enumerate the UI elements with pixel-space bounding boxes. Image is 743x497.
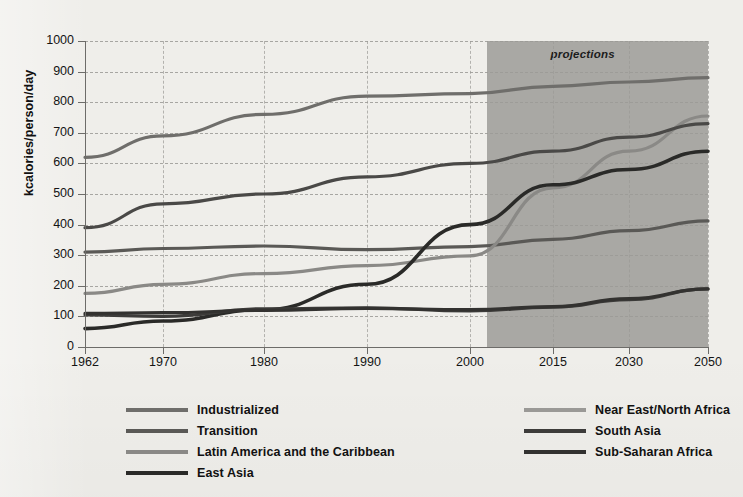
x-tick-label-2030: 2030: [615, 355, 643, 369]
x-tick-label-2050: 2050: [694, 355, 722, 369]
legend-item-industrialized[interactable]: Industrialized: [126, 403, 279, 417]
chart-legend: IndustrializedTransitionLatin America an…: [126, 403, 726, 485]
legend-item-latin-america-and-the-caribbean[interactable]: Latin America and the Caribbean: [126, 445, 395, 459]
legend-label-latin-america-and-the-caribbean: Latin America and the Caribbean: [197, 445, 395, 459]
legend-label-near-east-north-africa: Near East/North Africa: [595, 403, 730, 417]
legend-swatch-icon-east-asia: [126, 471, 188, 475]
legend-swatch-icon-sub-saharan-africa: [524, 450, 586, 454]
legend-item-near-east-north-africa[interactable]: Near East/North Africa: [524, 403, 730, 417]
legend-swatch-icon-near-east-north-africa: [524, 408, 586, 412]
x-tick-label-1970: 1970: [149, 355, 177, 369]
x-tick-2030: [629, 347, 630, 354]
legend-swatch-icon-latin-america-and-the-caribbean: [126, 450, 188, 454]
legend-label-industrialized: Industrialized: [197, 403, 279, 417]
legend-item-sub-saharan-africa[interactable]: Sub-Saharan Africa: [524, 445, 712, 459]
x-tick-2000: [470, 347, 471, 354]
x-tick-1970: [163, 347, 164, 354]
chart-page: projections 0100200300400500600700800900…: [0, 0, 743, 497]
legend-item-transition[interactable]: Transition: [126, 424, 258, 438]
x-tick-label-2000: 2000: [456, 355, 484, 369]
x-tick-2015: [553, 347, 554, 354]
x-tick-2050: [708, 347, 709, 354]
legend-label-transition: Transition: [197, 424, 258, 438]
chart-canvas: projections 0100200300400500600700800900…: [0, 0, 743, 497]
x-tick-1990: [367, 347, 368, 354]
legend-label-sub-saharan-africa: Sub-Saharan Africa: [595, 445, 712, 459]
legend-item-east-asia[interactable]: East Asia: [126, 466, 254, 480]
legend-swatch-icon-industrialized: [126, 408, 188, 412]
x-tick-1962: [85, 347, 86, 354]
x-tick-1980: [264, 347, 265, 354]
y-axis-title: kcalories/person/day: [22, 70, 36, 196]
x-tick-label-1962: 1962: [71, 355, 99, 369]
x-tick-label-1990: 1990: [353, 355, 381, 369]
legend-label-east-asia: East Asia: [197, 466, 254, 480]
legend-swatch-icon-south-asia: [524, 429, 586, 433]
legend-swatch-icon-transition: [126, 429, 188, 433]
x-tick-label-1980: 1980: [250, 355, 278, 369]
legend-label-south-asia: South Asia: [595, 424, 661, 438]
legend-item-south-asia[interactable]: South Asia: [524, 424, 661, 438]
x-tick-label-2015: 2015: [539, 355, 567, 369]
